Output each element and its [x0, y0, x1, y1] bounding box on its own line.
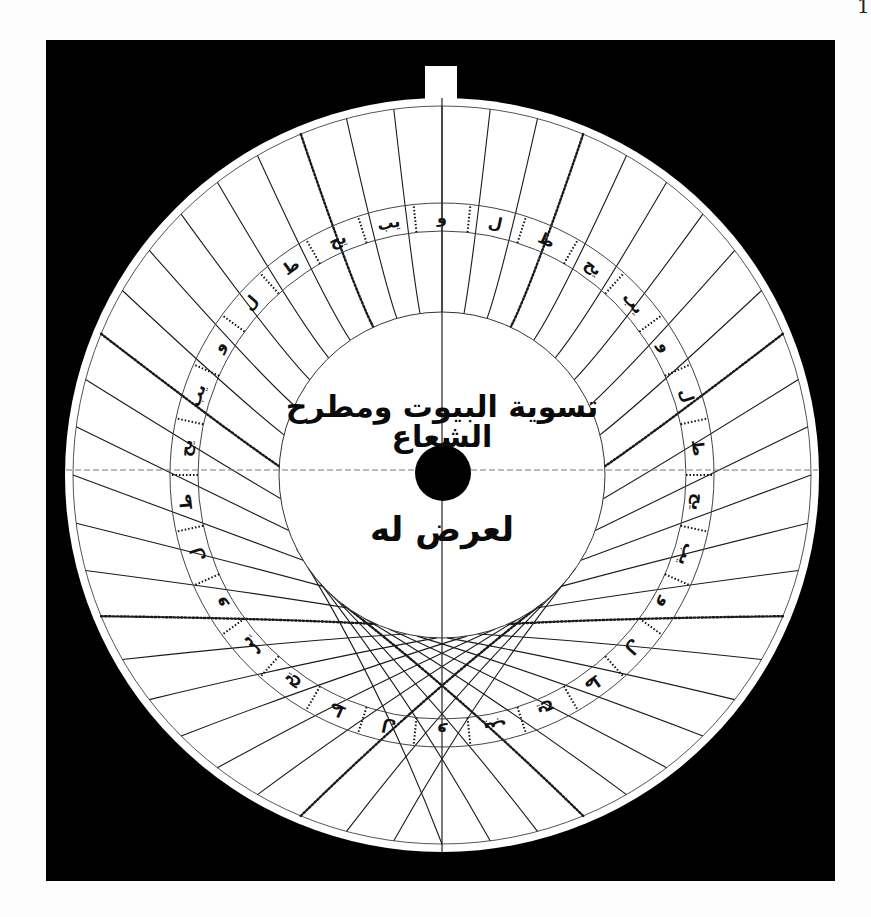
ring-label: ط	[176, 493, 197, 512]
ring-label: ط	[688, 439, 709, 458]
plate-title-line-2: لعرض له	[280, 512, 604, 546]
ring-label: يح	[176, 438, 197, 457]
suspension-tab	[425, 66, 457, 102]
astrolabe-plate: ولطيحيبولطيحيبولطيحيبولطيحيبولطيحيبولطيح…	[0, 0, 871, 917]
plate-title-line-1: تسوية البيوت ومطرح الشعاع	[280, 392, 604, 452]
ring-label: يح	[688, 492, 709, 511]
